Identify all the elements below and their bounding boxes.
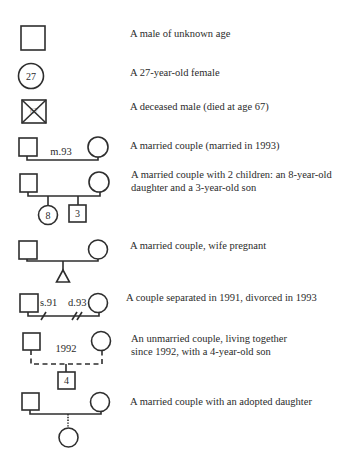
separation-year-label: s.91 — [40, 297, 57, 308]
marriage-line — [28, 192, 100, 196]
female-circle-icon — [89, 240, 108, 259]
legend-description: A married couple with 2 children: an 8-y… — [131, 169, 343, 194]
legend-description: An unmarried couple, living together sin… — [131, 333, 311, 358]
female-circle-icon — [88, 137, 108, 157]
separated-divorced-symbol: s.91 d.93 — [20, 294, 108, 321]
male-square-icon — [19, 241, 37, 259]
male-unknown-age-symbol — [21, 26, 45, 50]
marriage-year-label: m.93 — [50, 146, 71, 157]
cohabitation-year-label: 1992 — [56, 343, 77, 354]
female-circle-icon — [89, 172, 109, 192]
adopted-daughter-symbol — [22, 393, 110, 448]
legend-description: A married couple (married in 1993) — [130, 140, 340, 153]
legend-description: A married couple, wife pregnant — [130, 240, 340, 253]
legend-description: A married couple with an adopted daughte… — [130, 396, 340, 409]
male-square-icon — [21, 26, 45, 50]
son-age-label: 4 — [64, 375, 69, 386]
marriage-line — [30, 410, 101, 414]
adopted-daughter-circle-icon — [59, 428, 78, 447]
female-circle-icon — [92, 332, 111, 351]
male-square-icon — [23, 333, 40, 350]
legend-description: A 27-year-old female — [130, 67, 340, 80]
unmarried-couple-symbol: 1992 4 — [23, 332, 111, 390]
pregnancy-triangle-icon — [57, 270, 70, 282]
son-age-label: 3 — [75, 208, 80, 219]
wife-pregnant-symbol — [19, 240, 108, 282]
legend-description: A deceased male (died at age 67) — [130, 101, 340, 114]
divorce-year-label: d.93 — [68, 297, 86, 308]
male-square-icon — [20, 294, 38, 312]
couple-two-children-symbol: 8 3 — [20, 172, 109, 225]
age-label: 27 — [26, 71, 36, 82]
female-circle-icon — [89, 294, 108, 313]
female-27-symbol: 27 — [19, 64, 44, 89]
legend-description: A couple separated in 1991, divorced in … — [126, 292, 336, 305]
male-square-icon — [22, 393, 39, 410]
legend-description: A male of unknown age — [130, 28, 340, 41]
deceased-male-symbol: 67 — [22, 100, 46, 123]
daughter-age-label: 8 — [46, 210, 51, 221]
male-square-icon — [19, 138, 37, 156]
male-square-icon — [20, 174, 37, 192]
female-circle-icon — [91, 393, 110, 412]
married-couple-symbol: m.93 — [19, 137, 108, 160]
